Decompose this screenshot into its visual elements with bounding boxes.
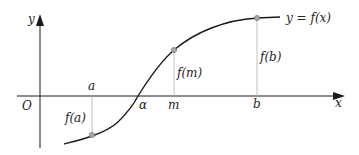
x-label-b: b	[253, 97, 261, 111]
point-fa	[89, 132, 94, 137]
y-axis-arrow-icon	[36, 14, 44, 26]
point-fm	[171, 47, 176, 52]
y-axis-label: y	[27, 12, 35, 26]
value-label-fa: f(a)	[64, 111, 86, 125]
function-curve	[64, 17, 280, 144]
value-label-fb: f(b)	[259, 50, 282, 64]
x-label-m: m	[168, 98, 179, 112]
value-label-fm: f(m)	[176, 66, 203, 80]
diagram-canvas: y x O y = f(x) a f(a) α m f(m) b f(b)	[0, 0, 359, 155]
x-axis-label: x	[335, 96, 342, 110]
function-diagram: y x O y = f(x) a f(a) α m f(m) b f(b)	[0, 0, 359, 155]
origin-label: O	[22, 99, 32, 113]
x-label-a: a	[88, 79, 95, 93]
point-fb	[254, 15, 259, 20]
root-label-alpha: α	[139, 98, 147, 112]
curve-label: y = f(x)	[285, 11, 331, 25]
